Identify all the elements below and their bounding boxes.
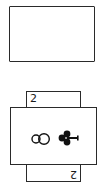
card-rank-top: 2 bbox=[30, 93, 37, 104]
club-icon bbox=[58, 130, 82, 146]
card-rank-bottom: 2 bbox=[70, 169, 77, 180]
empty-card-slot[interactable] bbox=[9, 6, 95, 62]
playing-card-horizontal[interactable] bbox=[10, 107, 97, 165]
club-outline-icon bbox=[31, 132, 51, 146]
